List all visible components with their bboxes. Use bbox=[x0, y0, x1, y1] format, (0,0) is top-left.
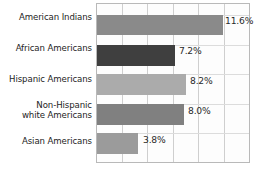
bar-chart-figure: American Indians African Americans Hispa… bbox=[0, 0, 254, 177]
value-label-non-hispanic-white-americans: 8.0% bbox=[188, 106, 211, 116]
value-label-asian-americans: 3.8% bbox=[143, 135, 166, 145]
gridline-vertical-5 bbox=[224, 4, 225, 162]
category-label-asian-americans: Asian Americans bbox=[0, 136, 92, 146]
category-axis-labels: American Indians African Americans Hispa… bbox=[0, 3, 92, 163]
value-label-american-indians: 11.6% bbox=[225, 16, 253, 26]
category-label-american-indians: American Indians bbox=[0, 12, 92, 22]
bar-african-americans bbox=[97, 45, 175, 66]
category-label-hispanic-americans: Hispanic Americans bbox=[0, 74, 92, 84]
plot-area bbox=[96, 3, 250, 163]
category-label-african-americans: African Americans bbox=[0, 43, 92, 53]
value-label-hispanic-americans: 8.2% bbox=[190, 76, 213, 86]
bar-asian-americans bbox=[97, 133, 138, 154]
category-label-non-hispanic-white-americans: Non-Hispanic white Americans bbox=[0, 100, 92, 120]
bar-non-hispanic-white-americans bbox=[97, 104, 184, 125]
value-label-african-americans: 7.2% bbox=[179, 46, 202, 56]
bar-american-indians bbox=[97, 15, 223, 35]
bar-hispanic-americans bbox=[97, 74, 186, 95]
